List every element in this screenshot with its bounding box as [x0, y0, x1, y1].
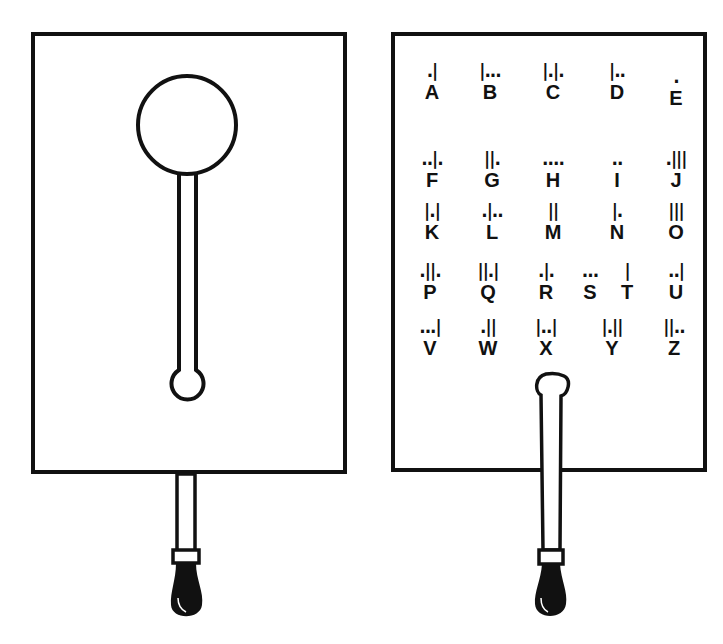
- right-pointer-icon[interactable]: [535, 373, 569, 616]
- morse-cell-w: .||W: [458, 316, 518, 358]
- morse-cell-z: ||..Z: [644, 316, 704, 358]
- morse-cell-c: |.|.C: [523, 60, 583, 102]
- morse-alphabet-grid: .|A |...B |.|.C |..D .E ..|.F ||.G ....H…: [400, 60, 700, 380]
- morse-cell-n: |.N: [587, 200, 647, 242]
- morse-cell-q: ||.|Q: [458, 260, 518, 302]
- morse-cell-b: |...B: [460, 60, 520, 102]
- morse-cell-x: |..|X: [516, 316, 576, 358]
- morse-cell-m: ||M: [523, 200, 583, 242]
- morse-cell-k: |.|K: [402, 200, 462, 242]
- morse-cell-g: ||.G: [462, 148, 522, 190]
- morse-cell-l: .|..L: [462, 200, 522, 242]
- morse-cell-o: |||O: [646, 200, 706, 242]
- left-handle-icon[interactable]: [171, 474, 202, 616]
- morse-cell-e: .E: [646, 66, 706, 108]
- morse-cell-i: ..I: [587, 148, 647, 190]
- morse-cell-u: ..|U: [646, 260, 706, 302]
- morse-cell-h: ....H: [523, 148, 583, 190]
- left-window-icon: [138, 76, 236, 400]
- morse-cell-d: |..D: [587, 60, 647, 102]
- morse-cell-y: |.||Y: [582, 316, 642, 358]
- morse-cell-v: ...|V: [400, 316, 460, 358]
- morse-cell-a: .|A: [402, 60, 462, 102]
- morse-cell-f: ..|.F: [402, 148, 462, 190]
- morse-cell-p: .||.P: [400, 260, 460, 302]
- morse-cell-j: .|||J: [646, 148, 706, 190]
